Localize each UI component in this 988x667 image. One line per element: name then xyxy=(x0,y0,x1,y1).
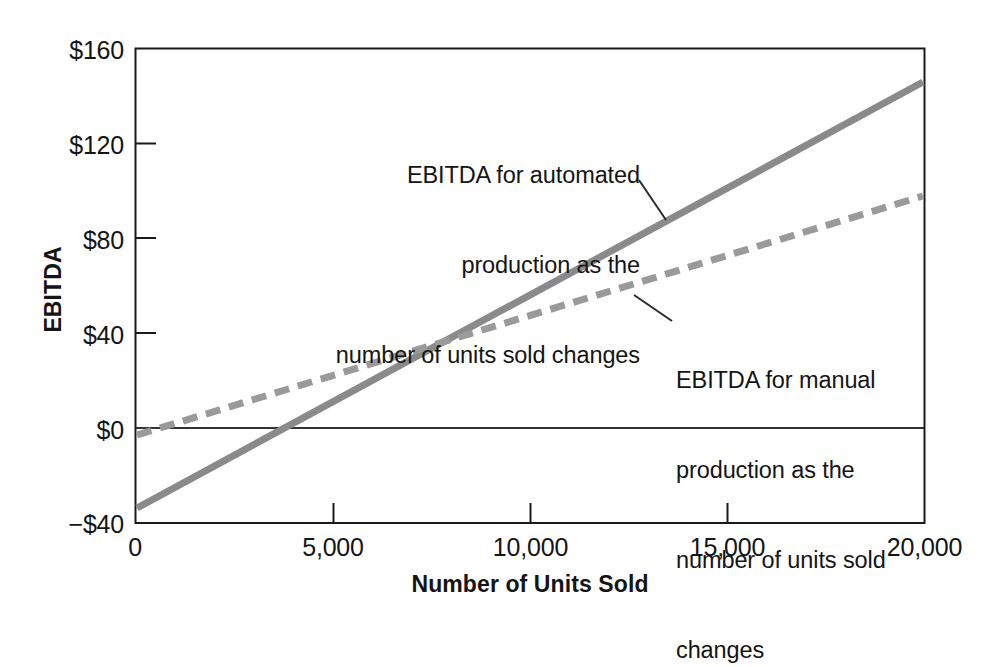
automated-annotation-line-2: production as the xyxy=(180,250,640,280)
x-tick-label-0: 0 xyxy=(85,533,185,562)
y-axis-title: EBITDA xyxy=(40,210,67,370)
manual-annotation: EBITDA for manual production as the numb… xyxy=(676,305,976,667)
x-tick-label-10000: 10,000 xyxy=(453,533,608,562)
manual-annotation-line-4: changes xyxy=(676,635,976,665)
automated-annotation-line-3: number of units sold changes xyxy=(180,340,640,370)
leader-line-automated xyxy=(639,180,666,220)
y-axis-ticks xyxy=(136,144,156,334)
y-tick-label-160: $160 xyxy=(24,36,124,65)
x-axis-title: Number of Units Sold xyxy=(330,571,730,598)
x-axis-ticks xyxy=(334,503,728,523)
automated-annotation-line-1: EBITDA for automated xyxy=(180,160,640,190)
manual-annotation-line-2: production as the xyxy=(676,455,976,485)
x-tick-label-5000: 5,000 xyxy=(263,533,403,562)
y-tick-label-0: $0 xyxy=(24,416,124,445)
manual-annotation-line-3: number of units sold xyxy=(676,545,976,575)
y-tick-label-120: $120 xyxy=(24,131,124,160)
manual-annotation-line-1: EBITDA for manual xyxy=(676,365,976,395)
automated-annotation: EBITDA for automated production as the n… xyxy=(180,100,640,430)
